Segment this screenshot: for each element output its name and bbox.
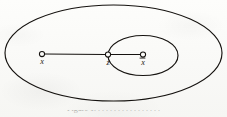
node-label-xbar: x <box>140 58 145 67</box>
node-x <box>39 51 44 56</box>
figure-container: x z x Figure 1. . . . . . . . . . . . . … <box>0 0 227 117</box>
edge-x-to-z <box>45 54 106 55</box>
node-label-x: x <box>39 57 44 66</box>
set-diagram: x z x <box>0 0 227 117</box>
node-z <box>105 52 110 57</box>
node-xbar <box>140 52 145 57</box>
outer-set-ellipse <box>5 5 222 101</box>
